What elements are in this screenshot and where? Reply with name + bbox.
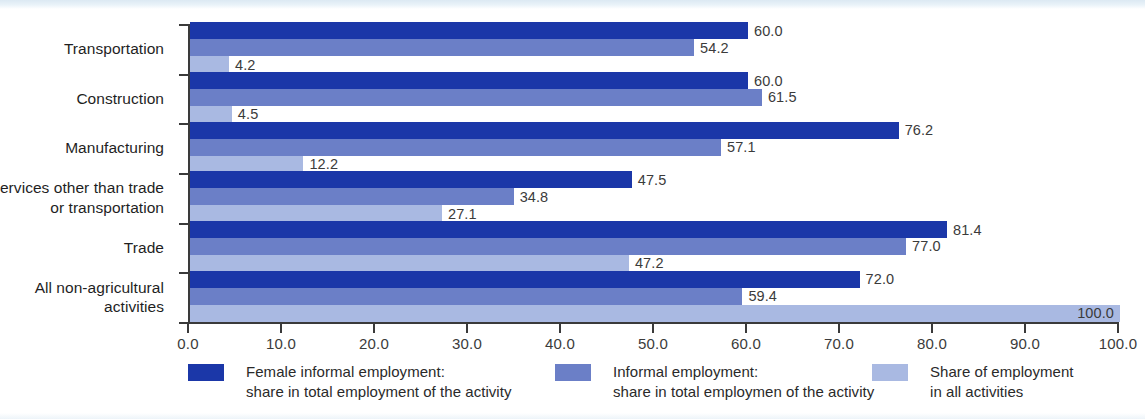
category-tick [179,74,188,76]
x-axis-tick-label: 90.0 [1010,335,1040,352]
bar: 60.0 [190,22,748,39]
bar-value-label: 60.0 [754,23,783,39]
bar: 72.0 [190,271,860,288]
legend-item[interactable]: Share of employmentin all activities [872,362,1074,402]
bar-value-label: 12.2 [309,156,338,172]
bar-group: 47.534.827.1 [190,173,1120,223]
legend-label: Female informal employment:share in tota… [246,362,512,402]
category-label-line: Services other than trade [0,178,164,198]
category-tick [179,24,188,26]
x-axis-tick-label: 40.0 [545,335,575,352]
x-axis-tick [373,324,375,333]
legend-label: Share of employmentin all activities [930,362,1074,402]
plot-area: 60.054.24.260.061.54.576.257.112.247.534… [188,24,1118,322]
category-axis-labels: TransportationConstructionManufacturingS… [0,24,178,322]
x-axis-tick-label: 60.0 [731,335,761,352]
legend-label-line2: in all activities [930,382,1074,402]
category-label: Manufacturing [0,138,164,158]
x-axis-tick [466,324,468,333]
x-axis-tick [1117,324,1119,333]
category-label-line: Transportation [0,39,164,59]
legend-item[interactable]: Informal employment:share in total emplo… [555,362,874,402]
bar: 76.2 [190,122,899,139]
legend-label: Informal employment:share in total emplo… [613,362,874,402]
legend-item[interactable]: Female informal employment:share in tota… [188,362,512,402]
bar-value-label: 100.0 [1077,305,1114,321]
category-label: Trade [0,238,164,258]
legend-label-line2: share in total employmen of the activity [613,382,874,402]
x-axis-tick-label: 30.0 [452,335,482,352]
x-axis-tick-label: 0.0 [177,335,198,352]
category-label-line: All non-agricultural [0,278,164,298]
bar-value-label: 4.5 [238,106,258,122]
bar-group: 60.054.24.2 [190,24,1120,74]
category-label: Transportation [0,39,164,59]
x-axis-tick-label: 20.0 [359,335,389,352]
category-label-line: or transportation [0,198,164,218]
bar-value-label: 76.2 [905,122,934,138]
x-axis-tick [652,324,654,333]
category-label: Services other than tradeor transportati… [0,178,164,217]
bar: 57.1 [190,139,721,156]
category-label: All non-agriculturalactivities [0,278,164,317]
bar-group: 60.061.54.5 [190,74,1120,124]
category-label-line: Construction [0,89,164,109]
bar: 54.2 [190,39,694,56]
legend-color-swatch [872,364,908,381]
x-axis-tick-label: 70.0 [824,335,854,352]
bar-value-label: 47.2 [635,255,664,271]
x-axis-tick [187,324,189,333]
bar-value-label: 54.2 [700,40,729,56]
top-edge-band [0,0,1145,9]
bar-value-label: 59.4 [748,288,777,304]
bar: 34.8 [190,188,514,205]
bar: 47.5 [190,171,632,188]
legend-label-line1: Share of employment [930,363,1074,380]
x-axis-tick [838,324,840,333]
bar-value-label: 47.5 [638,172,667,188]
bar-group: 72.059.4100.0 [190,272,1120,322]
x-axis-tick [1024,324,1026,333]
legend-label-line2: share in total employment of the activit… [246,382,512,402]
bar-value-label: 77.0 [912,238,941,254]
category-label-line: Trade [0,238,164,258]
x-axis-tick-label: 80.0 [917,335,947,352]
x-axis-tick-label: 50.0 [638,335,668,352]
bar-value-label: 60.0 [754,73,783,89]
bar: 81.4 [190,221,947,238]
category-tick [179,173,188,175]
category-tick [179,223,188,225]
legend-label-line1: Informal employment: [613,363,758,380]
bar-value-label: 81.4 [953,222,982,238]
x-axis-tick-label: 100.0 [1099,335,1138,352]
bar-chart: TransportationConstructionManufacturingS… [0,0,1145,419]
bar: 100.0 [190,305,1120,322]
legend-label-line1: Female informal employment: [246,363,445,380]
bar: 4.5 [190,106,232,123]
bar: 59.4 [190,288,742,305]
bar-value-label: 4.2 [235,57,255,73]
x-axis-tick [931,324,933,333]
legend-color-swatch [555,364,591,381]
x-axis-tick [745,324,747,333]
bar: 77.0 [190,238,906,255]
x-axis-tick [280,324,282,333]
bar-value-label: 72.0 [866,271,895,287]
chart-legend: Female informal employment:share in tota… [0,362,1145,419]
legend-color-swatch [188,364,224,381]
category-tick [179,123,188,125]
bar-group: 76.257.112.2 [190,123,1120,173]
bar: 60.0 [190,72,748,89]
category-tick [179,272,188,274]
bar-value-label: 34.8 [520,189,549,205]
bar-value-label: 27.1 [448,206,477,222]
bar-group: 81.477.047.2 [190,223,1120,273]
bar: 12.2 [190,156,303,173]
bar: 27.1 [190,205,442,222]
bar-value-label: 61.5 [768,89,797,105]
category-label: Construction [0,89,164,109]
category-label-line: Manufacturing [0,138,164,158]
bar-value-label: 57.1 [727,139,756,155]
x-axis-tick [559,324,561,333]
bar: 4.2 [190,56,229,73]
